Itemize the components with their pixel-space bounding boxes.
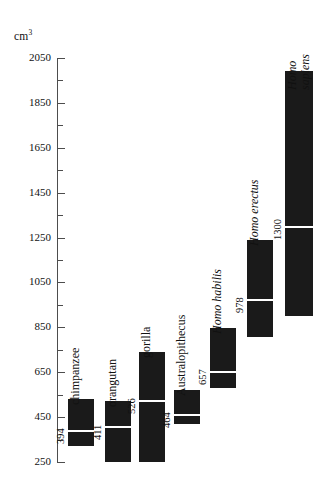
y-axis-tick-minor <box>57 305 63 306</box>
range-bar <box>247 240 273 338</box>
range-bar <box>285 71 313 316</box>
y-axis-tick-major <box>57 148 65 149</box>
y-axis-tick-major <box>57 417 65 418</box>
y-axis-tick-minor <box>57 350 63 351</box>
mean-value-label: 1300 <box>272 219 284 240</box>
range-bar <box>139 352 165 462</box>
y-axis-tick-label-text: 1650 <box>11 142 51 153</box>
y-axis-unit-text: cm <box>14 30 28 42</box>
y-axis-tick-label: 1850 <box>6 97 51 108</box>
y-axis-tick-major <box>57 282 65 283</box>
y-axis-tick-label-text: 1250 <box>11 232 51 243</box>
y-axis-tick-minor <box>57 170 63 171</box>
species-label: Homo habilis <box>211 269 223 334</box>
y-axis-tick-major <box>57 462 65 463</box>
mean-marker-line <box>68 430 94 432</box>
y-axis-unit-label: cm3 <box>14 30 32 42</box>
y-axis-tick-label: 450 <box>6 411 51 422</box>
species-label-line1: Homo <box>286 30 299 90</box>
cranial-capacity-chart: cm3 205018501650145012501050850650450250… <box>0 0 326 484</box>
mean-value-label: 464 <box>161 412 173 428</box>
y-axis-tick-major <box>57 372 65 373</box>
y-axis-tick-minor <box>57 260 63 261</box>
mean-marker-line <box>105 426 131 428</box>
y-axis-tick-label: 1050 <box>6 276 51 287</box>
mean-value-label: 526 <box>126 398 138 414</box>
species-label: chimpanzee <box>69 348 81 405</box>
species-label: Homosapiens <box>286 30 311 90</box>
y-axis-tick-major <box>57 238 65 239</box>
range-bar <box>210 328 236 387</box>
species-label: Australopithecus <box>175 315 187 396</box>
y-axis-tick-label: 650 <box>6 366 51 377</box>
y-axis-tick-label-text: 2050 <box>11 52 51 63</box>
y-axis-tick-minor <box>57 125 63 126</box>
species-label: orangutan <box>106 359 118 407</box>
y-axis-tick-major <box>57 193 65 194</box>
mean-value-label: 657 <box>197 369 209 385</box>
mean-value-label: 411 <box>92 424 104 439</box>
y-axis-tick-label-text: 1050 <box>11 276 51 287</box>
y-axis-tick-label-text: 650 <box>11 366 51 377</box>
y-axis-tick-label: 1250 <box>6 232 51 243</box>
species-label: Homo erectus <box>248 179 260 246</box>
y-axis-tick-label-text: 450 <box>11 411 51 422</box>
y-axis-tick-label-text: 850 <box>11 321 51 332</box>
y-axis-tick-label: 1650 <box>6 142 51 153</box>
y-axis-tick-label: 250 <box>6 456 51 467</box>
y-axis-tick-label: 1450 <box>6 187 51 198</box>
y-axis-tick-minor <box>57 215 63 216</box>
species-label-line2: sapiens <box>299 30 312 90</box>
range-bar <box>68 399 94 446</box>
mean-value-label: 978 <box>234 297 246 313</box>
mean-value-label: 394 <box>55 428 67 444</box>
mean-marker-line <box>285 226 313 228</box>
species-label: gorilla <box>140 327 152 358</box>
y-axis-tick-label: 850 <box>6 321 51 332</box>
y-axis-tick-major <box>57 327 65 328</box>
mean-marker-line <box>174 414 200 416</box>
y-axis-unit-superscript: 3 <box>28 28 32 37</box>
y-axis-tick-label-text: 1850 <box>11 97 51 108</box>
mean-marker-line <box>139 400 165 402</box>
mean-marker-line <box>247 299 273 301</box>
y-axis-tick-minor <box>57 80 63 81</box>
y-axis-tick-label-text: 250 <box>11 456 51 467</box>
y-axis-tick-major <box>57 58 65 59</box>
y-axis-tick-label: 2050 <box>6 52 51 63</box>
y-axis-tick-label-text: 1450 <box>11 187 51 198</box>
mean-marker-line <box>210 371 236 373</box>
y-axis-tick-major <box>57 103 65 104</box>
y-axis-tick-minor <box>57 395 63 396</box>
